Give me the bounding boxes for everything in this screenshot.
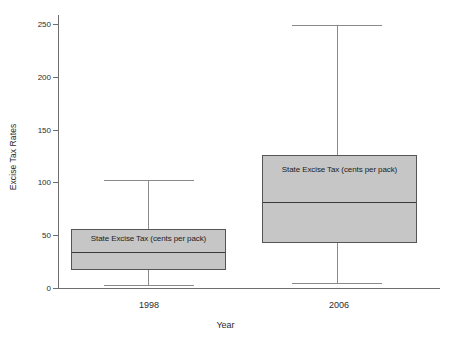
x-axis-title: Year — [0, 320, 451, 330]
lower-whisker-cap-2006 — [292, 283, 382, 284]
y-axis-title: Excise Tax Rates — [8, 97, 18, 217]
x-tick-label-1998: 1998 — [104, 300, 194, 310]
y-axis-line — [58, 15, 59, 289]
lower-whisker-stem-1998 — [148, 270, 149, 285]
median-line-1998 — [72, 252, 225, 253]
upper-whisker-stem-2006 — [337, 25, 338, 155]
boxplot-chart: Excise Tax Rates 250 200 150 100 50 0 St… — [0, 0, 451, 340]
upper-whisker-cap-1998 — [104, 180, 194, 181]
y-tick-label-50: 50 — [11, 231, 51, 240]
upper-whisker-cap-2006 — [292, 25, 382, 26]
lower-whisker-stem-2006 — [337, 243, 338, 283]
median-line-2006 — [263, 202, 416, 203]
box-label-1998: State Excise Tax (cents per pack) — [71, 234, 226, 243]
y-tick-label-200: 200 — [11, 73, 51, 82]
y-tick-label-0: 0 — [11, 284, 51, 293]
box-label-2006: State Excise Tax (cents per pack) — [262, 165, 417, 174]
y-tick-label-100: 100 — [11, 178, 51, 187]
x-axis-line — [58, 288, 440, 289]
y-tick-label-250: 250 — [11, 20, 51, 29]
upper-whisker-stem-1998 — [148, 180, 149, 229]
y-tick-label-150: 150 — [11, 126, 51, 135]
lower-whisker-cap-1998 — [104, 285, 194, 286]
x-tick-label-2006: 2006 — [294, 300, 384, 310]
